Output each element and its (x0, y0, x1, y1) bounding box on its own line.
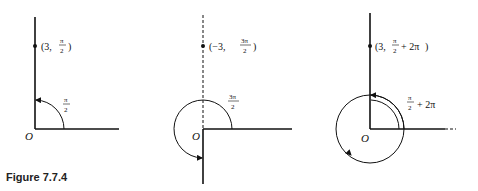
point-label-num: π (393, 37, 397, 45)
point-label-den: 2 (243, 47, 247, 55)
point-label-num: π (60, 37, 64, 45)
point-label-den: 2 (60, 47, 64, 55)
point-label-prefix: (3, (41, 41, 52, 53)
angle-label-extra: + 2π (417, 99, 435, 110)
polar-figure: (3, π 2 ) π 2 O (−3, 3π 2 ) 3π 2 O (3, (0, 0, 478, 191)
angle-label-num: 3π (229, 93, 237, 101)
point-label-close: ) (68, 41, 71, 53)
angle-label-den: 2 (408, 104, 412, 112)
point-marker (33, 44, 37, 48)
angle-label-den: 2 (231, 103, 235, 111)
arrow-bottom (348, 152, 351, 155)
origin-label: O (361, 132, 369, 144)
point-label-prefix: (−3, (209, 41, 225, 53)
origin-label: O (25, 130, 33, 142)
point-marker (368, 44, 372, 48)
angle-label-den: 2 (64, 106, 68, 114)
point-label-prefix: (3, (375, 41, 386, 53)
figure-caption: Figure 7.7.4 (6, 171, 67, 183)
point-label-den: 2 (393, 47, 397, 55)
point-label-close: ) (425, 41, 428, 53)
panel-3: (3, π 2 + 2π ) π 2 + 2π O (336, 13, 456, 163)
point-label-num: 3π (241, 37, 249, 45)
angle-arc (36, 100, 64, 129)
point-label-close: ) (253, 41, 256, 53)
panel-2: (−3, 3π 2 ) 3π 2 O (174, 15, 292, 184)
panel-1: (3, π 2 ) π 2 O (25, 17, 119, 142)
angle-label-num: π (64, 96, 68, 104)
origin-label: O (192, 130, 200, 142)
point-marker (201, 44, 205, 48)
point-label-extra: + 2π (401, 41, 419, 52)
angle-label-num: π (408, 94, 412, 102)
angle-arc-inner (371, 100, 399, 129)
